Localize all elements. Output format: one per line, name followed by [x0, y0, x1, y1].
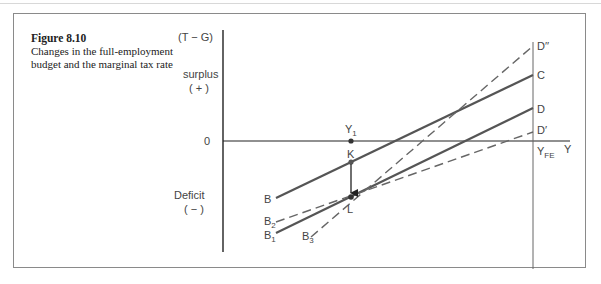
- label-B1: B1: [264, 229, 276, 244]
- surplus-sign: ( + ): [189, 82, 209, 94]
- zero-label: 0: [204, 135, 210, 147]
- point-L-label: L: [347, 203, 353, 215]
- label-C: C: [537, 69, 545, 81]
- yfe-label: YFE: [537, 145, 555, 160]
- y1-label: Y1: [345, 123, 357, 138]
- y-axis-label: (T − G): [178, 31, 213, 43]
- point-L: [348, 194, 354, 200]
- line-B2Dprime: [276, 132, 533, 222]
- label-D: D: [537, 103, 545, 115]
- label-B2: B2: [264, 215, 276, 230]
- deficit-sign: ( − ): [184, 203, 204, 215]
- deficit-label: Deficit: [174, 189, 205, 201]
- point-Y1: [348, 138, 353, 143]
- label-Ddoubleprime: D′′: [537, 40, 549, 52]
- label-B: B: [264, 193, 271, 205]
- point-K-label: K: [347, 148, 355, 160]
- point-K: [348, 159, 353, 164]
- line-B1D: [276, 108, 533, 233]
- label-Dprime: D′: [537, 124, 547, 136]
- budget-diagram: (T − G) surplus ( + ) 0 Deficit ( − ) Y …: [0, 0, 601, 284]
- x-axis-label: Y: [564, 143, 572, 155]
- line-BC: [276, 75, 533, 198]
- surplus-label: surplus: [183, 68, 219, 80]
- label-B3: B3: [302, 230, 314, 245]
